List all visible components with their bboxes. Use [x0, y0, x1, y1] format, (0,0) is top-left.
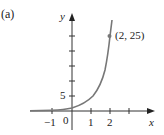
y-axis-arrow-icon: [69, 13, 75, 21]
point-marker: [108, 34, 112, 38]
point-annotation: (2, 25): [115, 29, 144, 41]
x-tick-label-1: 1: [88, 116, 94, 128]
x-tick-label-minus1: −1: [44, 116, 56, 128]
exponential-chart: [0, 0, 164, 135]
y-axis-label: y: [60, 10, 65, 22]
exponential-curve: [30, 20, 112, 111]
x-axis-arrow-icon: [147, 108, 155, 114]
x-tick-label-2: 2: [107, 116, 113, 128]
x-tick-label-0: 0: [63, 114, 69, 126]
x-axis-label: x: [149, 116, 154, 128]
y-tick-label-5: 5: [60, 89, 66, 101]
